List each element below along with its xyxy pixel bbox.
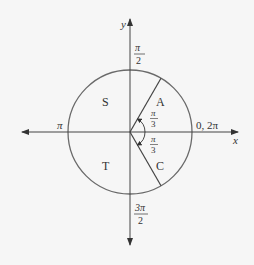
ref-angle-lower-den: 3 — [151, 145, 156, 155]
x-axis-label: x — [232, 134, 238, 146]
quadrant-label-t: T — [102, 159, 110, 173]
label-pi-over-2-den: 2 — [136, 55, 141, 66]
ref-angle-upper-den: 3 — [151, 119, 156, 129]
y-axis-label: y — [120, 18, 126, 30]
unit-circle-diagram: y x π 2 π 0, 2π 3π 2 S A T C π 3 π 3 — [0, 0, 254, 265]
label-three-pi-over-2-den: 2 — [138, 215, 143, 226]
angle-arc-upper — [138, 119, 146, 132]
quadrant-label-s: S — [102, 95, 109, 109]
quadrant-label-c: C — [156, 159, 164, 173]
label-three-pi-over-2-num: 3π — [134, 202, 146, 213]
angle-arc-lower — [138, 132, 146, 145]
ref-angle-lower-num: π — [151, 134, 156, 144]
label-pi-over-2-num: π — [135, 42, 141, 53]
label-zero-two-pi: 0, 2π — [196, 119, 219, 131]
diagram-canvas: y x π 2 π 0, 2π 3π 2 S A T C π 3 π 3 — [0, 0, 254, 265]
quadrant-label-a: A — [156, 95, 165, 109]
label-pi: π — [57, 119, 63, 131]
ref-angle-upper-num: π — [151, 108, 156, 118]
